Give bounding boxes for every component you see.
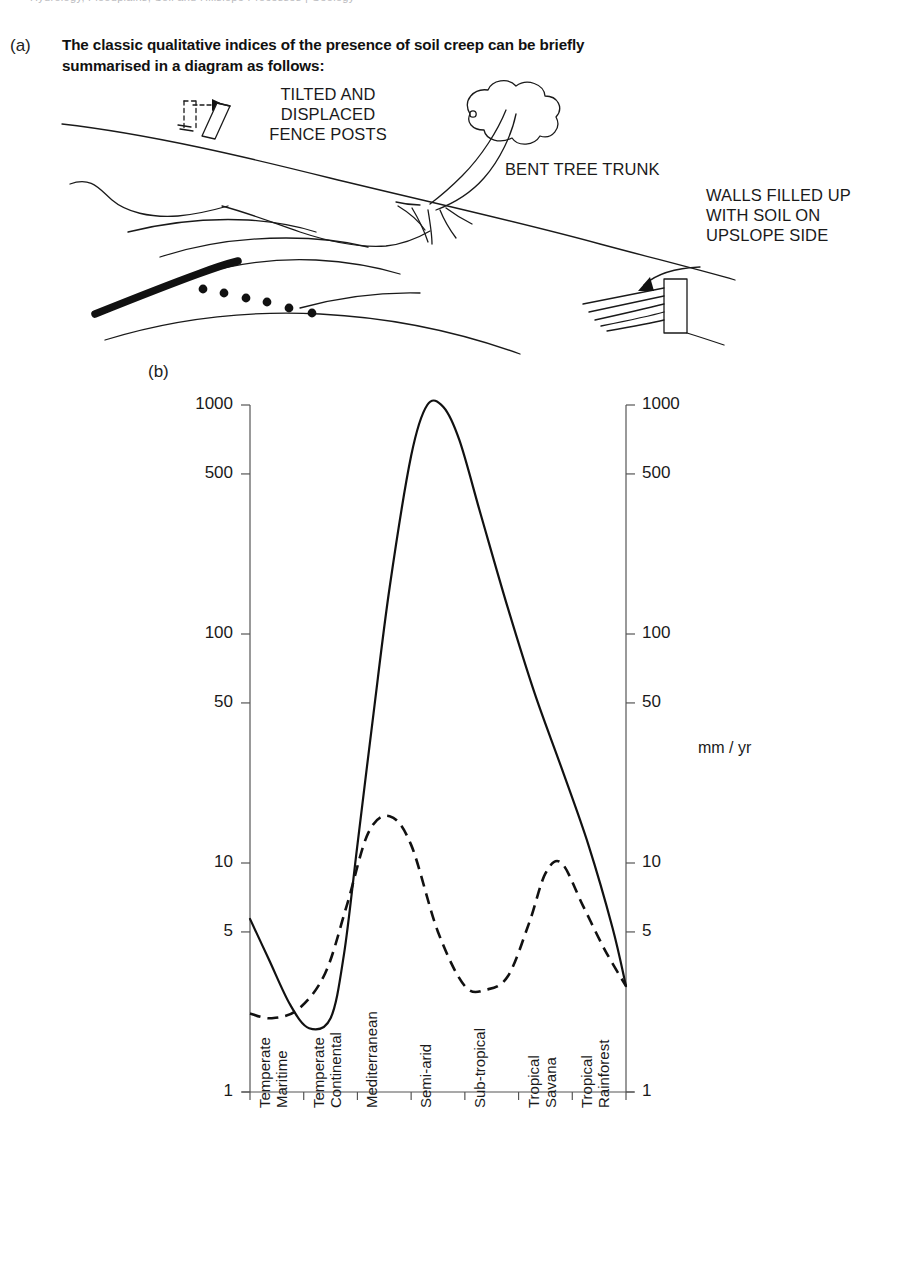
y-tick-label-left: 100: [163, 623, 233, 643]
x-category-label: Mediterranean: [363, 1011, 380, 1108]
annotation-fence-posts-line3: FENCE POSTS: [243, 124, 413, 144]
y-tick-label-right: 50: [642, 692, 712, 712]
panel-a-tag: (a): [10, 36, 31, 56]
annotation-walls-line3: UPSLOPE SIDE: [706, 225, 906, 245]
y-tick-label-left: 5: [163, 921, 233, 941]
running-head: Hydrology, Floodplains, Soil and Hillslo…: [30, 0, 530, 5]
y-axis-ticks-right: [626, 405, 635, 1092]
x-category-label: Temperate: [310, 1037, 327, 1108]
y-tick-label-right: 10: [642, 852, 712, 872]
annotation-walls-line2: WITH SOIL ON: [706, 205, 906, 225]
annotation-walls-line1: WALLS FILLED UP: [706, 185, 906, 205]
y-tick-label-right: 1000: [642, 394, 712, 414]
y-tick-label-right: 100: [642, 623, 712, 643]
x-category-label: Sub-tropical: [471, 1028, 488, 1108]
x-category-label: Tropical: [525, 1055, 542, 1108]
annotation-bent-tree-trunk: BENT TREE TRUNK: [505, 159, 660, 179]
y-tick-label-right: 500: [642, 463, 712, 483]
annotation-fence-posts: TILTED AND DISPLACED FENCE POSTS: [243, 84, 413, 144]
series-dashed-curve: [250, 816, 626, 1018]
y-tick-label-left: 10: [163, 852, 233, 872]
x-category-label: Semi-arid: [417, 1044, 434, 1108]
panel-a-caption: The classic qualitative indices of the p…: [62, 34, 602, 76]
annotation-walls: WALLS FILLED UP WITH SOIL ON UPSLOPE SID…: [706, 185, 906, 245]
panel-b-tag: (b): [148, 362, 169, 382]
y-tick-label-left: 1: [163, 1081, 233, 1101]
x-category-label: Temperate: [256, 1037, 273, 1108]
x-category-label: Rainforest: [595, 1040, 612, 1108]
x-axis-ticks: [250, 1092, 626, 1100]
y-axis-ticks-left: [241, 405, 250, 1092]
y-tick-label-left: 50: [163, 692, 233, 712]
chart-unit-label: mm / yr: [698, 739, 751, 757]
y-tick-label-right: 1: [642, 1081, 712, 1101]
creep-rate-chart: [0, 380, 908, 1100]
x-category-label: Continental: [327, 1032, 344, 1108]
annotation-fence-posts-line2: DISPLACED: [243, 104, 413, 124]
y-tick-label-left: 500: [163, 463, 233, 483]
x-category-label: Tropical: [578, 1055, 595, 1108]
chart-axes: [242, 405, 634, 1092]
y-tick-label-right: 5: [642, 921, 712, 941]
annotation-fence-posts-line1: TILTED AND: [243, 84, 413, 104]
x-category-label: Savana: [542, 1057, 559, 1108]
y-tick-label-left: 1000: [163, 394, 233, 414]
x-category-label: Maritime: [273, 1050, 290, 1108]
